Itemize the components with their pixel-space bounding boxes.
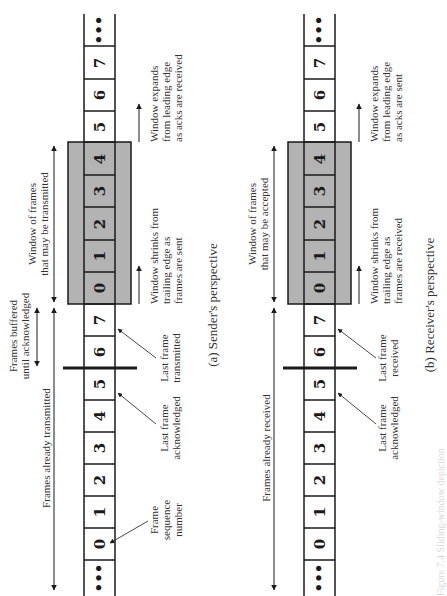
sender-ellipsis-bottom: •••	[90, 564, 108, 593]
receiver-frame-cell: 6	[311, 90, 329, 100]
receiver-expands-label: from leading edge	[380, 62, 392, 142]
sender-window-cell: 4	[91, 154, 109, 164]
receiver-frame-cell: 6	[311, 347, 329, 357]
sender-expands-label: Window expands	[148, 66, 160, 142]
sender-last-ack-label: Last frame	[158, 404, 170, 451]
sender-frame-cell: 4	[91, 411, 109, 421]
receiver-last-rx-pointer	[338, 329, 376, 358]
sender-expands-label: from leading edge	[160, 62, 172, 142]
receiver-frame-cell: 5	[311, 379, 329, 389]
sender-buffered-label: Frames buffered	[7, 299, 19, 372]
receiver-last-rx-label: Last frame	[376, 334, 388, 381]
receiver-window-cell: 1	[311, 251, 329, 261]
sender-last-ack-pointer	[118, 393, 156, 424]
receiver-frame-cell: 1	[311, 507, 329, 517]
sender-window-cell: 1	[91, 251, 109, 261]
sender-frame-cell: 7	[91, 315, 109, 325]
receiver-expands-label: as acks are sent	[392, 74, 404, 142]
receiver-window-cell: 4	[311, 154, 329, 164]
sender-seq-label: number	[172, 503, 184, 537]
sender-expands-label: as acks are received	[172, 54, 184, 142]
receiver-last-ack-pointer	[338, 393, 376, 424]
sender-panel: ••• 7 6 5 4 3 2 1 0 7 6 5 4 3 2 1 0 ••• …	[7, 14, 220, 596]
sender-window-cell: 3	[91, 186, 109, 196]
sender-window-cell: 0	[91, 283, 109, 293]
sender-window-label: Window of frames	[26, 183, 38, 265]
sender-seq-label: Frame	[148, 506, 160, 534]
receiver-frame-cell: 0	[311, 539, 329, 549]
sender-frame-cell: 7	[91, 58, 109, 68]
sender-frame-cell: 6	[91, 90, 109, 100]
receiver-panel: ••• 7 6 5 4 3 2 1 0 7 6 5 4 3 2 1 0 ••• …	[246, 14, 437, 596]
receiver-window-cell: 3	[311, 186, 329, 196]
receiver-window-label: that may be accepted	[258, 177, 270, 270]
sender-frame-cell: 0	[91, 539, 109, 549]
sliding-window-diagram: ••• 7 6 5 4 3 2 1 0 7 6 5 4 3 2 1 0 ••• …	[0, 0, 447, 596]
receiver-frame-cell: 3	[311, 443, 329, 453]
sender-frame-cell: 3	[91, 443, 109, 453]
receiver-last-rx-label: received	[388, 339, 400, 377]
sender-window-label: that may be transmitted	[38, 172, 50, 276]
receiver-frame-cell: 4	[311, 411, 329, 421]
receiver-already-label: Frames already received	[260, 394, 272, 502]
receiver-ellipsis-top: •••	[310, 16, 328, 45]
sender-frame-cell: 2	[91, 475, 109, 485]
sender-last-tx-label: Last frame	[158, 334, 170, 381]
sender-last-tx-pointer	[118, 329, 156, 358]
sender-shrinks-label: Window shrinks from	[148, 207, 160, 304]
receiver-window-label: Window of frames	[246, 183, 258, 265]
receiver-ellipsis-bottom: •••	[310, 564, 328, 593]
sender-last-tx-label: transmitted	[170, 333, 182, 383]
receiver-window-cell: 0	[311, 283, 329, 293]
figure-caption: Figure 7.4 Sliding-window depiction	[435, 448, 446, 596]
sender-frame-cell: 6	[91, 347, 109, 357]
sender-frame-cell: 5	[91, 122, 109, 132]
sender-buffered-label: until acknowledged	[19, 292, 31, 379]
receiver-shrinks-label: Window shrinks from	[368, 207, 380, 304]
sender-frame-cell: 5	[91, 379, 109, 389]
sender-window-cell: 2	[91, 219, 109, 229]
receiver-shrinks-label: trailing edge as	[380, 237, 392, 304]
sender-already-label: Frames already transmitted	[40, 388, 52, 508]
receiver-frame-cell: 7	[311, 58, 329, 68]
sender-frame-cell: 1	[91, 507, 109, 517]
receiver-frame-cell: 5	[311, 122, 329, 132]
receiver-caption: (b) Receiver's perspective	[422, 238, 437, 373]
sender-ellipsis-top: •••	[90, 16, 108, 45]
sender-last-ack-label: acknowledged	[170, 396, 182, 460]
receiver-window-cell: 2	[311, 219, 329, 229]
receiver-frame-cell: 7	[311, 315, 329, 325]
receiver-shrinks-label: frames are received	[392, 217, 404, 304]
sender-seq-label: sequence	[160, 500, 172, 540]
sender-shrinks-label: trailing edge as	[160, 237, 172, 304]
receiver-last-ack-label: Last frame	[376, 404, 388, 451]
sender-shrinks-label: frames are sent	[172, 237, 184, 304]
receiver-frame-cell: 2	[311, 475, 329, 485]
receiver-last-ack-label: acknowledged	[388, 396, 400, 460]
sender-caption: (a) Sender's perspective	[205, 243, 220, 367]
receiver-expands-label: Window expands	[368, 66, 380, 142]
